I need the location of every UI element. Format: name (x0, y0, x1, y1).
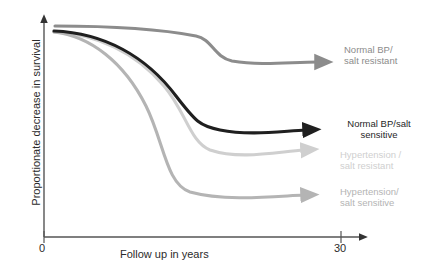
curve-hypertension-salt-resistant (54, 32, 304, 155)
series-label-hypertension-salt-sensitive: Hypertension/ salt sensitive (340, 186, 399, 208)
y-axis-title: Proportionate decrease in survival (30, 32, 43, 212)
survival-decline-chart: Normal BP/ salt resistant Normal BP/salt… (0, 0, 428, 270)
x-tick-label-min: 0 (39, 242, 45, 255)
x-tick-label-max: 30 (334, 242, 346, 255)
series-label-normal-bp-salt-resistant: Normal BP/ salt resistant (344, 44, 397, 66)
series-label-hypertension-salt-resistant: Hypertension / salt resistant (340, 149, 401, 171)
curve-hypertension-salt-sensitive (54, 32, 304, 198)
series-label-normal-bp-salt-sensitive: Normal BP/salt sensitive (333, 118, 425, 140)
x-axis-title: Follow up in years (120, 248, 209, 261)
